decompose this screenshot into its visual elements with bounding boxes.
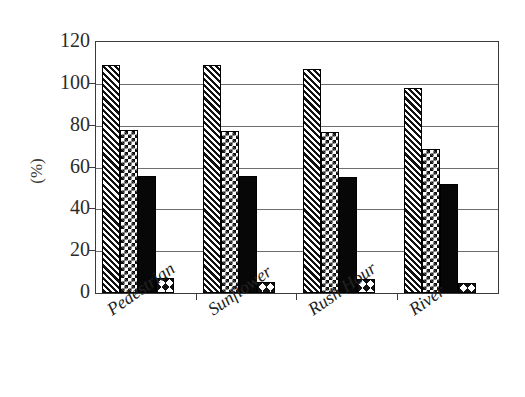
x-tick-label: Sunflower: [204, 261, 275, 319]
x-tick-label: River: [405, 281, 448, 320]
x-tick-label: Rush Hour: [304, 258, 380, 319]
x-tick-mark: [296, 293, 297, 300]
x-tick-mark: [397, 293, 398, 300]
x-tick-mark: [196, 293, 197, 300]
x-axis-labels: PedestrianSunflowerRush HourRiver: [0, 0, 525, 397]
x-tick-label: Pedestrian: [103, 258, 178, 319]
bar-chart-figure: (%) 020406080100120 PedestrianSunflowerR…: [0, 0, 525, 397]
